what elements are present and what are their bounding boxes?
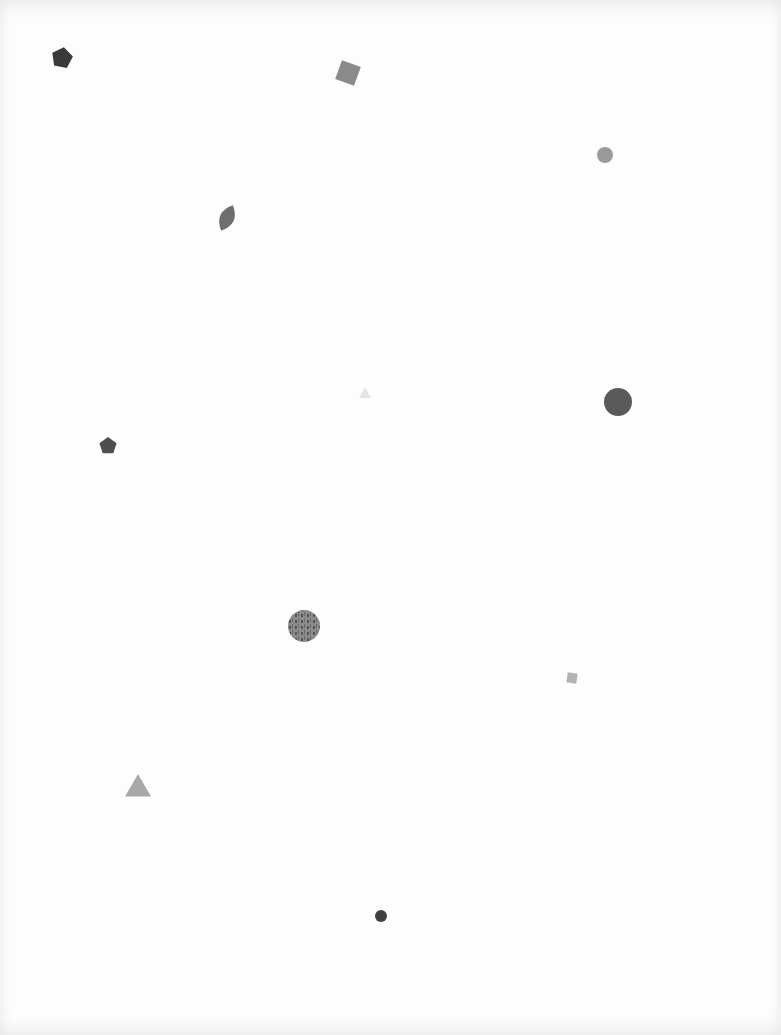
triangle-shape [359, 387, 371, 398]
square-shape [566, 672, 577, 683]
circle-shape [288, 610, 320, 642]
circle-shape [604, 388, 632, 416]
shapes-canvas [0, 0, 781, 1035]
circle-shape [597, 147, 613, 163]
triangle-shape [125, 774, 151, 797]
square-shape [335, 60, 361, 86]
leaf-shape [215, 202, 240, 233]
circle-shape [375, 910, 387, 922]
pentagon-shape [52, 47, 73, 68]
scanned-page [0, 0, 781, 1035]
pentagon-shape [99, 437, 116, 453]
